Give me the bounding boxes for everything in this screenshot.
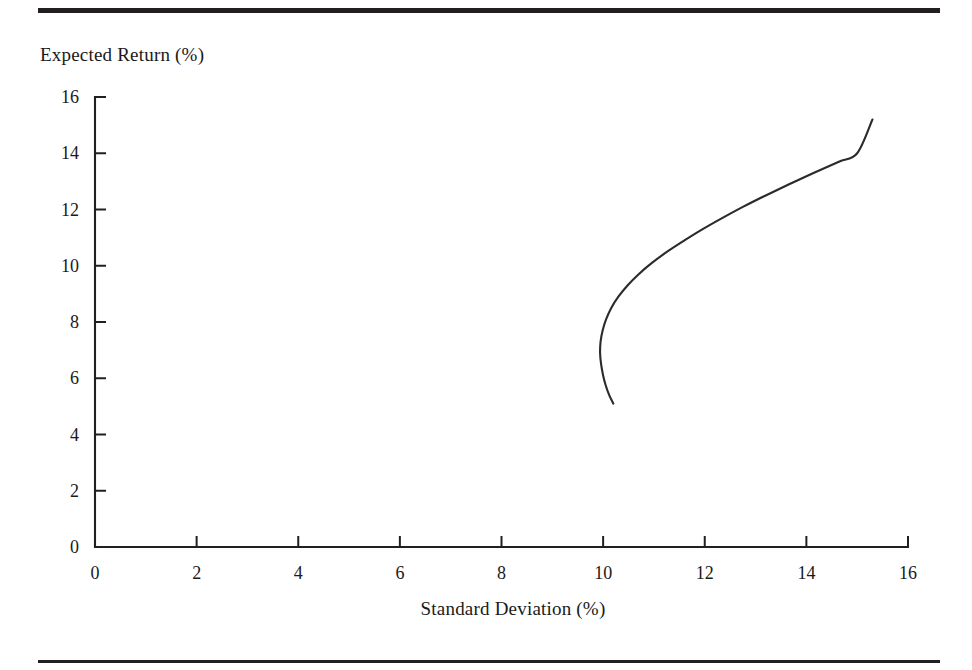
y-axis-ticks	[95, 97, 106, 491]
efficient-frontier-curve	[600, 120, 872, 404]
x-tick-label: 6	[395, 563, 404, 583]
x-tick-label: 8	[497, 563, 506, 583]
x-axis-ticks	[197, 536, 908, 547]
y-tick-label: 6	[70, 368, 79, 388]
y-tick-label: 8	[70, 312, 79, 332]
y-tick-label: 10	[61, 256, 79, 276]
y-tick-label: 0	[70, 537, 79, 557]
y-tick-label: 4	[70, 425, 79, 445]
bottom-horizontal-rule	[38, 660, 940, 663]
figure-container: Expected Return (%) 0246810121416 024681…	[0, 0, 972, 670]
axes-group: 0246810121416 0246810121416	[61, 87, 917, 583]
x-axis-tick-labels: 0246810121416	[91, 563, 918, 583]
y-tick-label: 2	[70, 481, 79, 501]
x-axis-title-wrap: Standard Deviation (%)	[0, 598, 972, 620]
y-axis-tick-labels: 0246810121416	[61, 87, 79, 557]
x-tick-label: 2	[192, 563, 201, 583]
y-tick-label: 16	[61, 87, 79, 107]
x-tick-label: 10	[594, 563, 612, 583]
y-tick-label: 12	[61, 200, 79, 220]
chart-plot-area: 0246810121416 0246810121416	[0, 0, 972, 670]
axis-lines	[95, 97, 908, 547]
x-axis-title: Standard Deviation (%)	[421, 598, 606, 620]
x-tick-label: 4	[294, 563, 303, 583]
x-tick-label: 0	[91, 563, 100, 583]
x-tick-label: 12	[696, 563, 714, 583]
x-tick-label: 14	[797, 563, 815, 583]
y-tick-label: 14	[61, 143, 79, 163]
x-tick-label: 16	[899, 563, 917, 583]
